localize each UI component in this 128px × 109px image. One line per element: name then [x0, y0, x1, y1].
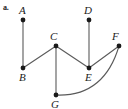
- graph-node-a: [21, 18, 26, 23]
- nodes-layer: [21, 18, 122, 98]
- graph-node-d: [87, 18, 92, 23]
- graph-node-e: [87, 66, 92, 71]
- edges-layer: [23, 20, 119, 95]
- graph-node-b: [21, 66, 26, 71]
- graph-node-g: [54, 93, 59, 98]
- node-label-e: E: [85, 72, 92, 83]
- node-label-b: B: [19, 72, 26, 83]
- part-label: a.: [3, 4, 9, 12]
- node-label-a: A: [19, 5, 26, 16]
- node-label-g: G: [51, 99, 59, 109]
- graph-edge-b-c: [23, 46, 56, 68]
- graph-node-f: [117, 44, 122, 49]
- node-label-f: F: [112, 31, 119, 42]
- node-label-c: C: [50, 31, 57, 42]
- graph-edge-c-e: [56, 46, 89, 68]
- graph-figure: a. ABCDEFG: [0, 0, 128, 109]
- node-label-d: D: [84, 5, 92, 16]
- graph-edge-e-f: [89, 46, 119, 68]
- graph-node-c: [54, 44, 59, 49]
- graph-drawing: [0, 0, 128, 109]
